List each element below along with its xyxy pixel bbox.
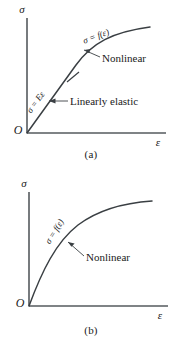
linearly-elastic-annotation-a: Linearly elastic <box>70 95 138 107</box>
origin-label-a: O <box>14 123 23 137</box>
origin-label-b: O <box>16 296 25 310</box>
stress-strain-chart-b: σ ε O σ = f(ε) Nonlinear <box>0 178 182 328</box>
x-axis-label-b: ε <box>158 309 163 321</box>
nonlinear-annotation-a: Nonlinear <box>102 52 146 64</box>
linearly-elastic-arrowhead-a <box>49 99 56 104</box>
nonlinear-arrowhead-b <box>68 242 75 247</box>
plot-area-a: σ ε O σ = Eε σ = f(ε) Nonlinear Linearly… <box>0 0 182 150</box>
y-axis-label-a: σ <box>19 3 25 15</box>
figure-caption-b: (b) <box>0 324 182 336</box>
figure-caption-a: (a) <box>0 148 182 160</box>
x-axis-label-a: ε <box>156 136 161 148</box>
stress-strain-chart-a: σ ε O σ = Eε σ = f(ε) Nonlinear Linearly… <box>0 0 182 150</box>
figure-panel-b: σ ε O σ = f(ε) Nonlinear (b) <box>0 178 182 354</box>
curve-equation-label-a: σ = f(ε) <box>82 27 111 46</box>
figure-panel-a: σ ε O σ = Eε σ = f(ε) Nonlinear Linearly… <box>0 0 182 178</box>
proportional-limit-tick-a <box>67 72 79 82</box>
plot-area-b: σ ε O σ = f(ε) Nonlinear <box>0 178 182 328</box>
y-axis-label-b: σ <box>21 178 27 189</box>
curve-equation-group-a: σ = f(ε) <box>82 27 111 46</box>
nonlinear-annotation-b: Nonlinear <box>86 251 130 263</box>
